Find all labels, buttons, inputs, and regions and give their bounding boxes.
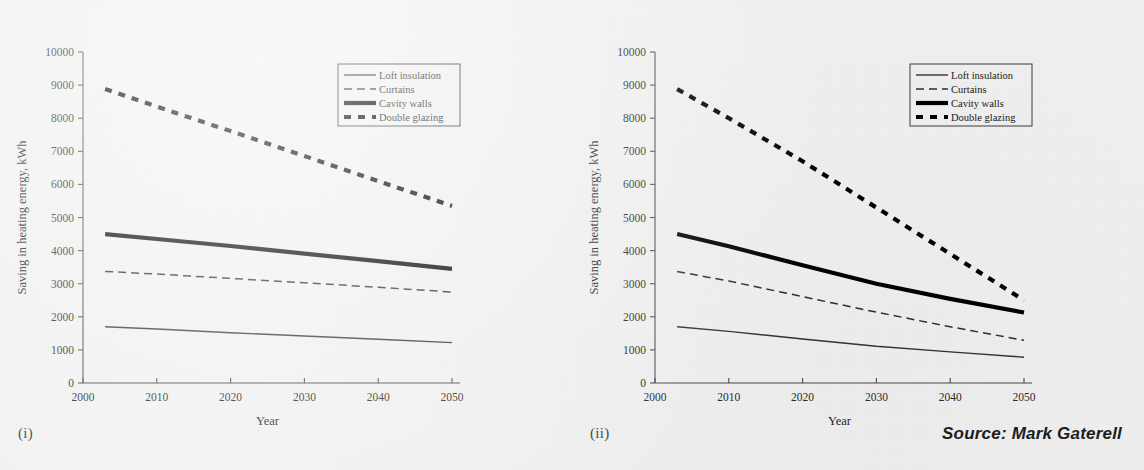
y-tick-label: 9000 — [51, 79, 74, 91]
y-axis-title: Saving in heating energy, kWh — [587, 140, 601, 295]
x-tick-label: 2020 — [219, 391, 242, 403]
legend-label-loft-insulation: Loft insulation — [951, 70, 1014, 81]
y-tick-label: 2000 — [51, 311, 74, 323]
series-line-curtains — [677, 271, 1024, 340]
y-tick-label: 10000 — [617, 46, 646, 58]
legend-label-double-glazing: Double glazing — [951, 112, 1016, 123]
x-tick-label: 2050 — [441, 391, 464, 403]
y-tick-label: 0 — [640, 377, 646, 389]
y-tick-label: 6000 — [51, 178, 74, 190]
y-tick-label: 5000 — [623, 212, 646, 224]
x-tick-label: 2030 — [293, 391, 316, 403]
y-tick-label: 0 — [68, 377, 74, 389]
y-tick-label: 7000 — [623, 145, 646, 157]
legend-label-double-glazing: Double glazing — [379, 112, 444, 123]
series-line-curtains — [105, 271, 452, 292]
x-tick-label: 2050 — [1013, 391, 1036, 403]
series-line-cavity-walls — [677, 234, 1024, 312]
legend-label-loft-insulation: Loft insulation — [379, 70, 442, 81]
legend-label-cavity-walls: Cavity walls — [951, 98, 1004, 109]
line-chart-ii: 0100020003000400050006000700080009000100… — [572, 0, 1144, 470]
y-tick-label: 10000 — [45, 46, 74, 58]
y-tick-label: 4000 — [623, 245, 646, 257]
y-tick-label: 6000 — [623, 178, 646, 190]
chart-panel-i: 0100020003000400050006000700080009000100… — [0, 0, 572, 470]
line-chart-i: 0100020003000400050006000700080009000100… — [0, 0, 572, 470]
x-axis-title: Year — [828, 414, 852, 428]
y-tick-label: 9000 — [623, 79, 646, 91]
panel-label-i: (i) — [18, 425, 33, 442]
y-tick-label: 1000 — [51, 344, 74, 356]
source-attribution: Source: Mark Gaterell — [942, 424, 1122, 444]
legend-label-cavity-walls: Cavity walls — [379, 98, 432, 109]
y-tick-label: 3000 — [623, 278, 646, 290]
x-axis-title: Year — [256, 414, 280, 428]
chart-panel-ii: 0100020003000400050006000700080009000100… — [572, 0, 1144, 470]
x-tick-label: 2000 — [72, 391, 95, 403]
series-line-cavity-walls — [105, 234, 452, 269]
legend-label-curtains: Curtains — [951, 84, 987, 95]
y-tick-label: 3000 — [51, 278, 74, 290]
y-axis-title: Saving in heating energy, kWh — [15, 140, 29, 295]
y-tick-label: 7000 — [51, 145, 74, 157]
series-line-loft-insulation — [105, 327, 452, 343]
x-tick-label: 2000 — [644, 391, 667, 403]
y-tick-label: 8000 — [51, 112, 74, 124]
y-tick-label: 8000 — [623, 112, 646, 124]
legend-label-curtains: Curtains — [379, 84, 415, 95]
x-tick-label: 2010 — [717, 391, 740, 403]
y-tick-label: 4000 — [51, 245, 74, 257]
figure-container: 0100020003000400050006000700080009000100… — [0, 0, 1144, 470]
x-tick-label: 2040 — [367, 391, 390, 403]
x-tick-label: 2010 — [145, 391, 168, 403]
y-tick-label: 2000 — [623, 311, 646, 323]
y-tick-label: 1000 — [623, 344, 646, 356]
x-tick-label: 2030 — [865, 391, 888, 403]
x-tick-label: 2040 — [939, 391, 962, 403]
y-tick-label: 5000 — [51, 212, 74, 224]
panel-label-ii: (ii) — [590, 425, 610, 442]
x-tick-label: 2020 — [791, 391, 814, 403]
